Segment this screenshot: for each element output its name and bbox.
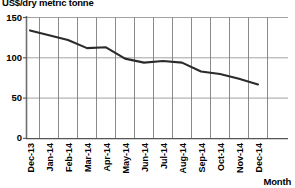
y-tick-label-0: 0 xyxy=(17,132,22,143)
x-tick-label-12: Dec-14 xyxy=(254,143,264,173)
x-tick-label-9: Sep-14 xyxy=(197,143,207,173)
y-tick-label-150: 150 xyxy=(6,12,22,23)
chart-canvas: 150 100 50 0 xyxy=(0,0,295,188)
x-tick-label-6: Jun-14 xyxy=(140,143,150,172)
x-tick-label-0: Dec-13 xyxy=(26,143,36,173)
x-tick-label-11: Nov-14 xyxy=(235,143,245,173)
x-tick-label-3: Mar-14 xyxy=(83,143,93,172)
x-tick-label-2: Feb-14 xyxy=(64,143,74,172)
x-tick-labels: Dec-13 Jan-14 Feb-14 Mar-14 Apr-14 May-1… xyxy=(26,143,264,174)
y-tick-labels: 150 100 50 0 xyxy=(6,12,22,143)
x-axis-title: Month xyxy=(264,176,292,187)
line-chart: US$/dry metric tonne 150 100 50 0 xyxy=(0,0,295,188)
x-tick-label-4: Apr-14 xyxy=(102,143,112,172)
x-tick-label-8: Aug-14 xyxy=(178,143,188,174)
x-tick-label-7: Jul-14 xyxy=(159,143,169,169)
x-tick-label-10: Oct-14 xyxy=(216,143,226,171)
x-tick-label-5: May-14 xyxy=(121,143,131,174)
y-tick-label-100: 100 xyxy=(6,52,22,63)
x-tick-label-1: Jan-14 xyxy=(45,143,55,172)
y-tick-label-50: 50 xyxy=(11,92,22,103)
